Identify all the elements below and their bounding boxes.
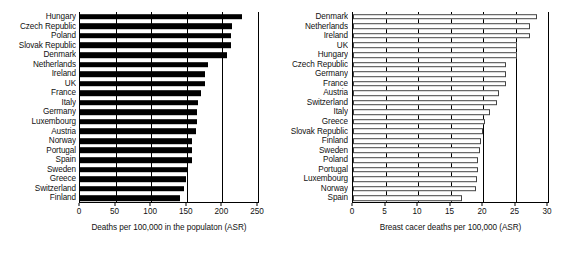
- bar-row: [80, 12, 258, 22]
- bar-row: [353, 79, 548, 89]
- bar-row: [353, 69, 548, 79]
- category-label: Netherlands: [2, 60, 76, 70]
- bar: [353, 148, 480, 154]
- category-label: Austria: [2, 127, 76, 137]
- bar-row: [80, 69, 258, 79]
- category-label: Denmark: [2, 50, 76, 60]
- bar-row: [80, 41, 258, 51]
- bar: [353, 33, 530, 39]
- category-label: Poland: [2, 31, 76, 41]
- category-label: Luxembourg: [2, 117, 76, 127]
- category-label: Austria: [284, 88, 348, 98]
- bar-row: [80, 127, 258, 137]
- bar: [80, 100, 198, 106]
- category-label: Switzerland: [284, 98, 348, 108]
- tick-mark: [547, 203, 548, 206]
- bar-row: [353, 193, 548, 203]
- bar: [353, 14, 537, 20]
- category-label: Finland: [284, 136, 348, 146]
- category-label: Luxembourg: [284, 174, 348, 184]
- tick-label: 50: [110, 207, 119, 216]
- category-label: Ireland: [2, 69, 76, 79]
- bar-row: [353, 50, 548, 60]
- category-label: Hungary: [2, 12, 76, 22]
- tick-mark: [482, 203, 483, 206]
- bar: [80, 157, 192, 163]
- bar-row: [353, 22, 548, 32]
- bar-row: [353, 174, 548, 184]
- tick-mark: [185, 203, 186, 206]
- tick-label: 30: [542, 207, 551, 216]
- category-label: Germany: [2, 107, 76, 117]
- figure-root: HungaryCzech RepublicPolandSlovak Republ…: [0, 0, 584, 260]
- bar: [353, 24, 530, 30]
- category-label: Switzerland: [2, 184, 76, 194]
- tick-label: 0: [77, 207, 82, 216]
- bar: [353, 167, 478, 173]
- tick-mark: [114, 203, 115, 206]
- bar-row: [80, 184, 258, 194]
- bar: [353, 109, 490, 115]
- right-x-axis-title: Breast cacer deaths per 100,000 (ASR): [352, 223, 549, 232]
- category-label: UK: [2, 79, 76, 89]
- bar: [353, 43, 517, 49]
- category-label: Spain: [284, 193, 348, 203]
- tick-mark: [514, 203, 515, 206]
- category-label: Finland: [2, 193, 76, 203]
- bar: [353, 52, 517, 58]
- bar: [353, 138, 481, 144]
- category-label: Czech Republic: [284, 60, 348, 70]
- bar: [80, 62, 208, 68]
- bar-row: [80, 60, 258, 70]
- category-label: Portugal: [284, 165, 348, 175]
- category-label: Norway: [284, 184, 348, 194]
- category-label: France: [2, 88, 76, 98]
- bar: [353, 129, 483, 135]
- left-x-axis-title: Deaths per 100,000 in the populaton (ASR…: [79, 223, 259, 232]
- right-plot-area: [352, 12, 549, 203]
- bar: [353, 186, 476, 192]
- bar: [80, 129, 196, 135]
- tick-label: 25: [510, 207, 519, 216]
- bar: [353, 71, 506, 77]
- category-label: Portugal: [2, 146, 76, 156]
- bar: [353, 81, 506, 87]
- bar-row: [80, 98, 258, 108]
- tick-mark: [384, 203, 385, 206]
- bar-row: [80, 174, 258, 184]
- tick-mark: [417, 203, 418, 206]
- category-label: Sweden: [2, 165, 76, 175]
- tick-mark: [352, 203, 353, 206]
- tick-mark: [221, 203, 222, 206]
- left-x-axis-ticks: 050100150200250: [79, 203, 259, 219]
- bar-row: [353, 98, 548, 108]
- bar: [80, 90, 201, 96]
- bar-row: [80, 165, 258, 175]
- bar: [80, 14, 242, 20]
- bar-row: [80, 136, 258, 146]
- bar: [80, 43, 231, 49]
- tick-label: 0: [350, 207, 355, 216]
- bar-row: [353, 165, 548, 175]
- bar-row: [353, 117, 548, 127]
- bar: [80, 195, 180, 201]
- bar: [80, 52, 227, 58]
- bar-row: [353, 60, 548, 70]
- category-label: Germany: [284, 69, 348, 79]
- category-label: UK: [284, 41, 348, 51]
- bar-row: [353, 146, 548, 156]
- tick-label: 250: [250, 207, 264, 216]
- bar-row: [353, 184, 548, 194]
- bar-row: [80, 193, 258, 203]
- left-category-labels: HungaryCzech RepublicPolandSlovak Republ…: [2, 12, 76, 203]
- bar-row: [353, 88, 548, 98]
- category-label: Slovak Republic: [2, 41, 76, 51]
- bar: [353, 119, 485, 125]
- category-label: Denmark: [284, 12, 348, 22]
- bar: [353, 157, 478, 163]
- bar: [80, 176, 186, 182]
- bar-row: [80, 108, 258, 118]
- tick-label: 10: [412, 207, 421, 216]
- bar: [80, 33, 231, 39]
- bar-row: [353, 108, 548, 118]
